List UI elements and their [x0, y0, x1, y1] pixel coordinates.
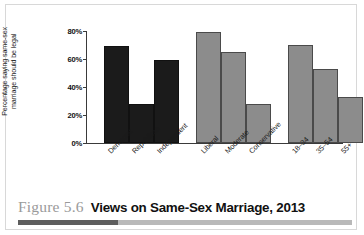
y-tick-label-80: 80%: [56, 27, 82, 36]
y-axis-line: [86, 31, 87, 144]
bar-age-18-34: [288, 45, 313, 143]
y-tick-mark-60: [83, 59, 86, 60]
y-tick-label-0: 0%: [56, 139, 82, 148]
bar-age-55-plus: [338, 97, 363, 143]
figure-container: Percentage saying same-sex marriage shou…: [0, 0, 364, 235]
caption-rule-dark-segment: [18, 220, 118, 225]
y-tick-label-20: 20%: [56, 111, 82, 120]
chart-plot-area: Percentage saying same-sex marriage shou…: [0, 0, 364, 196]
y-tick-label-60: 60%: [56, 55, 82, 64]
y-tick-mark-80: [83, 31, 86, 32]
figure-title: Views on Same-Sex Marriage, 2013: [91, 200, 305, 215]
caption-rule: [18, 220, 352, 225]
figure-number: Figure 5.6: [18, 198, 84, 216]
y-tick-label-40: 40%: [56, 83, 82, 92]
bar-age-35-54: [313, 69, 338, 143]
y-tick-mark-40: [83, 87, 86, 88]
bar-liberal: [196, 32, 221, 143]
y-tick-mark-20: [83, 115, 86, 116]
y-tick-mark-0: [83, 143, 86, 144]
y-axis-title: Percentage saying same-sex marriage shou…: [1, 9, 20, 133]
caption-rule-light-segment: [118, 220, 352, 225]
figure-caption: Figure 5.6 Views on Same-Sex Marriage, 2…: [18, 198, 352, 218]
